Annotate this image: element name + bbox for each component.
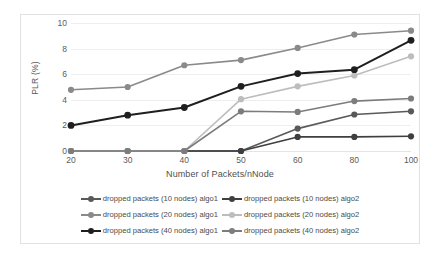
series-4 — [68, 53, 414, 154]
data-point — [351, 72, 357, 78]
legend-entry[interactable]: dropped packets (20 nodes) algo1 — [81, 207, 218, 222]
data-point — [181, 62, 187, 68]
x-axis-title: Number of Packets/nNode — [21, 169, 419, 179]
data-point — [351, 66, 358, 73]
data-point — [351, 98, 357, 104]
y-axis-tick-label: 10 — [45, 18, 67, 28]
chart-legend: dropped packets (10 nodes) algo1dropped … — [21, 191, 419, 243]
x-axis-tick-label: 40 — [180, 155, 189, 165]
data-point — [238, 83, 245, 90]
x-axis-tick-labels: 203040506080100 — [71, 155, 411, 169]
legend-marker-icon — [81, 210, 101, 219]
chart-figure: PLR (%) 0246810 203040506080100 Number o… — [20, 14, 420, 244]
data-point — [238, 57, 244, 63]
data-point — [408, 108, 414, 114]
series-6 — [68, 95, 414, 154]
y-axis-tick-label: 2 — [45, 120, 67, 130]
y-axis-tick-label: 0 — [45, 146, 67, 156]
data-point — [408, 133, 414, 139]
x-axis-tick-label: 30 — [123, 155, 132, 165]
legend-entry[interactable]: dropped packets (20 nodes) algo2 — [222, 207, 359, 222]
legend-label: dropped packets (10 nodes) algo2 — [244, 194, 359, 203]
x-axis-tick-label: 50 — [236, 155, 245, 165]
y-axis-tick-label: 4 — [45, 95, 67, 105]
legend-entry[interactable]: dropped packets (10 nodes) algo2 — [222, 191, 359, 206]
data-point — [351, 111, 357, 117]
data-point — [408, 28, 414, 34]
data-point — [351, 31, 357, 37]
data-point — [295, 109, 301, 115]
legend-marker-icon — [222, 194, 242, 203]
chart-canvas — [71, 23, 411, 151]
legend-marker-icon — [222, 210, 242, 219]
data-point — [351, 134, 357, 140]
data-point — [295, 126, 301, 132]
series-line — [71, 99, 411, 151]
legend-row: dropped packets (20 nodes) algo1dropped … — [21, 207, 419, 222]
legend-entry[interactable]: dropped packets (40 nodes) algo2 — [222, 223, 359, 238]
legend-marker-icon — [222, 226, 242, 235]
x-axis-tick-label: 20 — [66, 155, 75, 165]
y-axis-tick-labels: 0246810 — [43, 15, 67, 185]
legend-entry[interactable]: dropped packets (40 nodes) algo1 — [81, 223, 218, 238]
plot-area: PLR (%) 0246810 203040506080100 Number o… — [21, 15, 419, 185]
legend-row: dropped packets (10 nodes) algo1dropped … — [21, 191, 419, 206]
y-axis-tick-label: 6 — [45, 69, 67, 79]
x-axis-tick-label: 100 — [404, 155, 418, 165]
data-point — [238, 148, 244, 154]
data-point — [238, 96, 244, 102]
y-axis-title: PLR (%) — [30, 47, 40, 109]
series-5 — [68, 37, 415, 129]
data-point — [181, 104, 188, 111]
data-point — [294, 70, 301, 77]
data-point — [68, 148, 74, 154]
legend-label: dropped packets (40 nodes) algo2 — [244, 226, 359, 235]
data-point — [295, 134, 301, 140]
data-point — [295, 45, 301, 51]
data-point — [295, 83, 301, 89]
legend-label: dropped packets (20 nodes) algo2 — [244, 210, 359, 219]
data-point — [181, 148, 187, 154]
legend-row: dropped packets (40 nodes) algo1dropped … — [21, 223, 419, 238]
x-axis-tick-label: 80 — [350, 155, 359, 165]
data-point — [68, 87, 74, 93]
data-point — [125, 84, 131, 90]
legend-label: dropped packets (20 nodes) algo1 — [103, 210, 218, 219]
data-point — [125, 148, 131, 154]
data-point — [238, 108, 244, 114]
data-point — [408, 95, 414, 101]
y-axis-tick-label: 8 — [45, 44, 67, 54]
x-axis-tick-label: 60 — [293, 155, 302, 165]
data-point — [408, 53, 414, 59]
legend-entry[interactable]: dropped packets (10 nodes) algo1 — [81, 191, 218, 206]
series-1 — [68, 108, 414, 154]
series-layer — [71, 23, 411, 151]
legend-marker-icon — [81, 194, 101, 203]
legend-marker-icon — [81, 226, 101, 235]
data-point — [68, 122, 75, 129]
series-line — [71, 111, 411, 151]
data-point — [124, 112, 131, 119]
legend-label: dropped packets (10 nodes) algo1 — [103, 194, 218, 203]
data-point — [408, 37, 415, 44]
legend-label: dropped packets (40 nodes) algo1 — [103, 226, 218, 235]
